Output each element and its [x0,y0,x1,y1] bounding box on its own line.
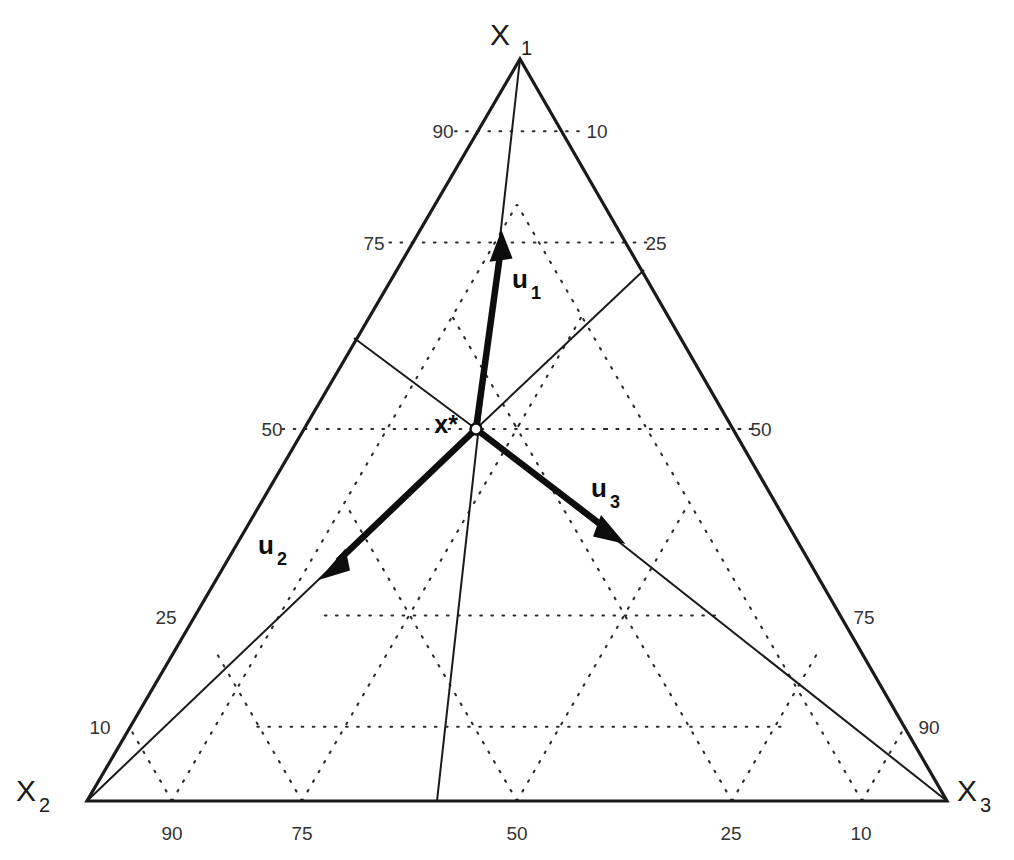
vector-u2 [319,429,477,580]
ternary-plot-canvas: X 1 X 2 X 3 90 75 50 25 10 10 25 50 75 9… [0,0,1014,860]
ternary-diagram-figure: X 1 X 2 X 3 90 75 50 25 10 10 25 50 75 9… [0,0,1014,860]
vertex-label-x2-base: X [16,774,36,807]
vector-label-u3-sub: 3 [610,492,620,512]
tick-bottom-50: 50 [506,823,527,844]
vector-label-u1-sub: 1 [531,283,541,303]
point-x-star-marker [471,424,482,435]
gridline-x2-50 [517,503,689,801]
vertex-label-x1: X [490,18,510,51]
vector-label-u2-sub: 2 [277,549,287,569]
vertex-label-x3: X [957,774,977,807]
construction-line-right [476,270,644,429]
vertex-label-x1-base: X [490,18,510,51]
tick-left-25: 25 [155,607,176,628]
tick-right-50: 50 [750,419,771,440]
vertex-label-x2: X [16,774,36,807]
vertex-label-x3-sub: 3 [980,794,991,816]
grid-constant-x1 [253,131,780,727]
tick-right-10: 10 [586,121,607,142]
vertex-label-x2-sub: 2 [39,794,50,816]
vector-u2-arrowhead [319,549,351,581]
vector-u1-shaft [476,252,500,429]
vertex-label-x1-sub: 1 [521,37,532,59]
vector-label-u1: u [512,264,528,294]
gridline-x2-75b [519,317,582,425]
tick-left-10: 10 [89,717,110,738]
vector-u1-arrowhead [490,230,513,262]
vector-label-u2: u [258,530,274,560]
tick-right-25: 25 [645,233,666,254]
tick-left-50: 50 [261,419,282,440]
tick-left-75: 75 [363,233,384,254]
tick-right-75: 75 [853,607,874,628]
tick-left-90: 90 [432,121,453,142]
tick-bottom-25: 25 [720,823,741,844]
tick-bottom-10: 10 [850,823,871,844]
gridline-x3-10 [129,727,172,802]
vertex-label-x3-base: X [957,774,977,807]
tick-bottom-90: 90 [161,823,182,844]
gridline-x2-75 [302,425,519,801]
tick-right-90: 90 [918,717,939,738]
vector-u3-shaft [476,429,604,527]
tick-bottom-75: 75 [291,823,312,844]
gridline-x2-90 [172,205,517,801]
point-label-x-star: x* [434,410,458,438]
vector-label-u3: u [591,473,607,503]
gridline-x3-50 [345,503,517,801]
vector-u2-shaft [338,429,476,561]
